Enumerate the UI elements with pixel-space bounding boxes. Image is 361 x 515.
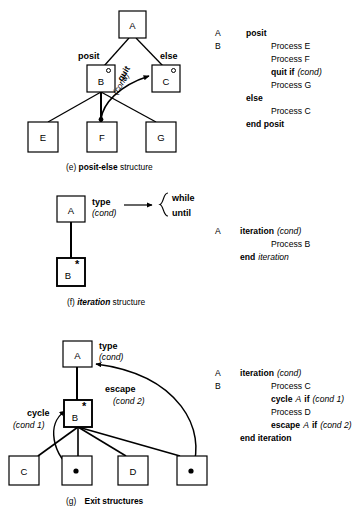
code-e-line2-col1: B (215, 42, 221, 51)
code-e-line5-body: Process G (271, 81, 311, 90)
node-c-label: C (152, 76, 180, 87)
type-edge-label-f: type (92, 198, 111, 207)
panel-g-caption: (g) Exit structures (66, 496, 143, 506)
node-a-label: A (119, 20, 146, 31)
iteration-star-marker-g: * (82, 401, 86, 412)
panel-f-caption-bold: iteration (77, 297, 110, 307)
panel-e-caption-bold: posit-else (79, 162, 118, 172)
escape-edge-label: escape (105, 385, 136, 394)
node-a-label-g: A (63, 350, 92, 361)
node-a-label-f: A (57, 205, 85, 216)
code-g-line3-cond: (cond 1) (313, 394, 345, 404)
code-g-line3-var: A (296, 394, 302, 404)
escape-cond-edge-label: (cond 2) (113, 397, 145, 406)
panel-e-caption-suffix: structure (120, 162, 153, 172)
code-e-line4-cond: (cond) (297, 67, 321, 77)
code-g-line1-cond: (cond) (277, 368, 301, 378)
code-e-line4-kw: quit if (271, 67, 294, 77)
type-cond-edge-label-g: (cond) (99, 353, 123, 362)
code-g-line5: escapeAif(cond 2) (271, 421, 352, 430)
node-c-label-g: C (9, 466, 39, 477)
panel-e-caption-prefix: (e) (66, 162, 76, 172)
code-g-line5-cond: (cond 2) (320, 420, 352, 430)
code-g-line5-var: A (303, 420, 309, 430)
cycle-edge-label: cycle (27, 409, 50, 418)
code-g-line4-body: Process D (271, 408, 311, 417)
node-b-label-g: B (64, 412, 86, 423)
code-g-line6-kw: end iteration (240, 434, 292, 443)
code-g-line5-kw: escape (271, 420, 300, 430)
code-g-line2-body: Process C (271, 382, 311, 391)
code-f-line3: enditeration (240, 253, 289, 262)
panel-g-caption-bold: Exit structures (85, 496, 144, 506)
diagram-lines-layer (0, 0, 361, 515)
panel-f-caption-suffix: structure (113, 297, 146, 307)
code-e-line6-kw: else (246, 94, 263, 103)
code-f-line3-kw-italic: iteration (258, 252, 289, 262)
code-e-line8-kw: end posit (246, 120, 284, 129)
cycle-cond-edge-label: (cond 1) (13, 421, 45, 430)
type-cond-edge-label-f: (cond) (92, 209, 116, 218)
panel-g-caption-prefix: (g) (66, 496, 76, 506)
node-e-label: E (28, 132, 58, 143)
code-e-line1-kw: posit (246, 29, 267, 38)
iteration-star-marker-f: * (75, 259, 79, 270)
code-f-line1: iteration(cond) (240, 227, 301, 236)
code-g-line3-if: if (304, 394, 309, 404)
node-b-label-f: B (57, 270, 79, 281)
code-f-line2-body: Process B (271, 240, 310, 249)
posit-edge-label: posit (78, 52, 100, 61)
code-f-line1-kw: iteration (240, 226, 274, 236)
code-g-line2-col1: B (215, 382, 221, 391)
code-f-line3-kw: end (240, 252, 255, 262)
code-g-line3-kw: cycle (271, 394, 293, 404)
code-e-line1-col1: A (215, 29, 221, 38)
brace-option-until: until (172, 209, 191, 218)
node-g-label: G (146, 132, 176, 143)
code-e-line3-body: Process F (271, 55, 310, 64)
node-b-label: B (87, 76, 115, 87)
figure-control-structures: A B C E F G posit else quit (cond) (e) p… (0, 0, 361, 515)
code-e-line7-body: Process C (271, 107, 311, 116)
code-g-line1-kw: iteration (240, 368, 274, 378)
brace-option-while: while (172, 194, 195, 203)
panel-f-caption: (f) iteration structure (67, 297, 145, 307)
code-e-line2-body: Process E (271, 42, 310, 51)
type-edge-label-g: type (99, 342, 118, 351)
code-e-line4: quit if(cond) (271, 68, 322, 77)
code-g-line3: cycleAif(cond 1) (271, 395, 344, 404)
panel-f-caption-prefix: (f) (67, 297, 75, 307)
code-g-line1-col1: A (215, 369, 221, 378)
code-g-line1: iteration(cond) (240, 369, 301, 378)
code-g-line5-if: if (312, 420, 317, 430)
node-f-label: F (87, 132, 117, 143)
code-f-line1-col1: A (215, 227, 221, 236)
panel-e-caption: (e) posit-else structure (66, 162, 153, 172)
code-f-line1-cond: (cond) (277, 226, 301, 236)
node-d-label-g: D (118, 466, 148, 477)
else-edge-label: else (160, 52, 178, 61)
